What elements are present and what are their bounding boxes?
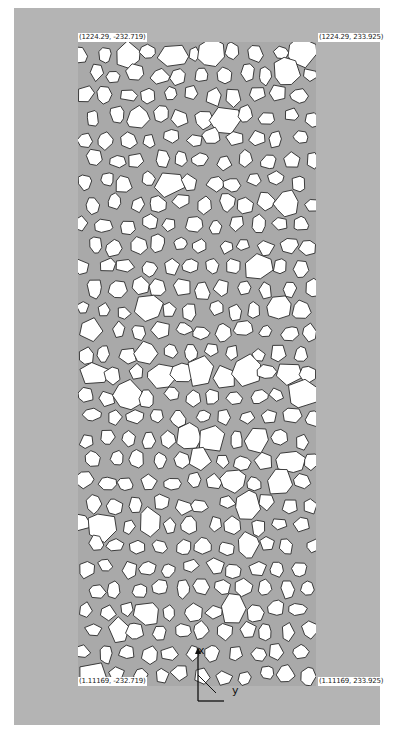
- corner-label-top-right: (1224.29, 233.925): [318, 33, 384, 42]
- corner-label-bottom-left: (1.11169, -232.719): [78, 677, 147, 686]
- concrete-specimen: [78, 42, 316, 686]
- axis-label-x: x: [198, 644, 205, 657]
- corner-label-top-left: (1224.29, -232.719): [78, 33, 147, 42]
- aggregate-mesh: [78, 42, 316, 686]
- axis-label-y: y: [232, 684, 239, 697]
- corner-label-bottom-right: (1.11169, 233.925): [318, 677, 384, 686]
